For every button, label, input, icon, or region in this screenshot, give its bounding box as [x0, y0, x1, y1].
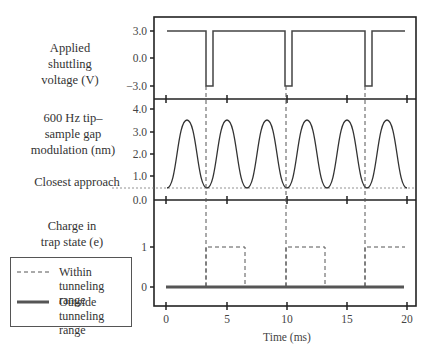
xtick-0: 0	[163, 313, 169, 325]
voltage-trace	[167, 31, 405, 86]
p2-ytick-2: 2.0	[133, 148, 148, 160]
within-tunneling-trace	[206, 247, 245, 287]
p3-ytick-0: 0	[141, 281, 147, 293]
p1-ytick-0: 0.0	[133, 52, 148, 64]
p2-ytick-0: 0.0	[133, 194, 148, 206]
p1-ytick-neg3: −3.0	[126, 80, 147, 92]
x-axis-label: Time (ms)	[263, 331, 311, 344]
chart-plot: 3.0 0.0 −3.0 4.0 3.0 2.0 1.0 0.0 1 0 0 5…	[0, 0, 432, 353]
p2-ytick-4: 4.0	[133, 103, 148, 115]
gap-modulation-trace	[167, 120, 407, 188]
xtick-10: 10	[281, 313, 293, 325]
p2-ytick-3: 3.0	[133, 126, 148, 138]
xtick-15: 15	[341, 313, 353, 325]
xtick-5: 5	[224, 313, 230, 325]
p2-ytick-1: 1.0	[133, 170, 148, 182]
xtick-20: 20	[401, 313, 413, 325]
p1-ytick-3: 3.0	[133, 25, 148, 37]
p3-ytick-1: 1	[141, 241, 147, 253]
